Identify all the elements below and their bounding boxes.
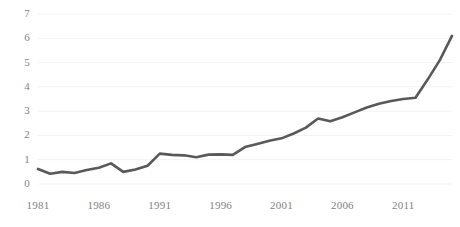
x-axis-tick-label: 1996 <box>198 200 244 211</box>
x-axis-tick-label: 2001 <box>259 200 305 211</box>
data-series-lines <box>38 36 452 174</box>
x-axis-tick-label: 1991 <box>137 200 183 211</box>
y-axis-tick-label: 0 <box>10 178 30 189</box>
series-line <box>38 36 452 174</box>
y-axis-tick-label: 2 <box>10 129 30 140</box>
gridlines <box>38 14 452 184</box>
y-axis-tick-label: 5 <box>10 57 30 68</box>
x-axis-tick-label: 2006 <box>319 200 365 211</box>
line-chart: 01234567 1981198619911996200120062011 <box>0 0 460 227</box>
y-axis-tick-label: 6 <box>10 32 30 43</box>
y-axis-tick-label: 7 <box>10 8 30 19</box>
y-axis-tick-label: 3 <box>10 105 30 116</box>
x-axis-tick-label: 2011 <box>380 200 426 211</box>
x-axis-tick-label: 1981 <box>15 200 61 211</box>
chart-plot-area <box>0 0 460 227</box>
y-axis-tick-label: 1 <box>10 154 30 165</box>
y-axis-tick-label: 4 <box>10 81 30 92</box>
x-axis-tick-label: 1986 <box>76 200 122 211</box>
